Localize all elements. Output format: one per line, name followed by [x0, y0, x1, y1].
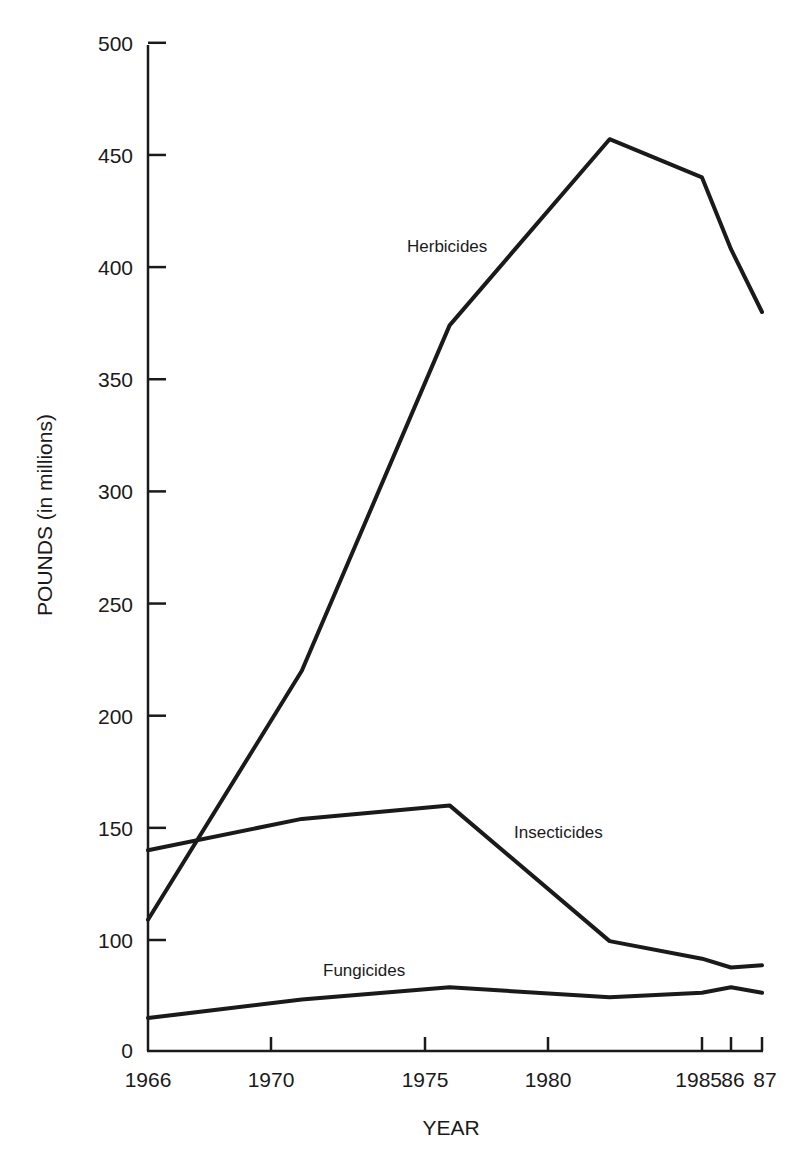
x-tick-label: 1980 [525, 1068, 572, 1091]
y-tick-label: 200 [98, 705, 133, 728]
y-tick-label: 300 [98, 480, 133, 503]
y-axis-title: POUNDS (in millions) [33, 414, 56, 616]
fungicides-label: Fungicides [323, 961, 405, 980]
y-tick-label: 150 [98, 817, 133, 840]
y-tick-label: 0 [121, 1039, 133, 1062]
x-tick-label: 1966 [125, 1068, 172, 1091]
herbicides-label: Herbicides [407, 237, 487, 256]
y-tick-label: 400 [98, 256, 133, 279]
fungicides-line [148, 987, 762, 1018]
x-tick-label: 1985 [675, 1068, 722, 1091]
x-tick-label: 87 [753, 1068, 776, 1091]
x-axis-title: YEAR [422, 1116, 479, 1139]
insecticides-line [148, 805, 762, 967]
y-tick-label: 100 [98, 929, 133, 952]
herbicides-line [148, 139, 762, 920]
x-axis: 196619701975198019858687 [125, 1037, 777, 1091]
x-tick-label: 86 [721, 1068, 744, 1091]
y-tick-label: 450 [98, 144, 133, 167]
y-tick-label: 250 [98, 593, 133, 616]
pesticide-usage-chart: 0100150200250300350400450500 19661970197… [0, 0, 808, 1160]
y-tick-label: 500 [98, 32, 133, 55]
x-tick-label: 1970 [248, 1068, 295, 1091]
y-tick-label: 350 [98, 368, 133, 391]
x-tick-label: 1975 [402, 1068, 449, 1091]
x-ticks: 196619701975198019858687 [125, 1037, 777, 1091]
series-lines [148, 139, 762, 1018]
insecticides-label: Insecticides [514, 823, 603, 842]
